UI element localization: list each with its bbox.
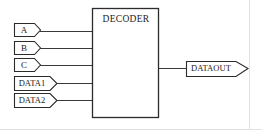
input-port-c-shape (15, 59, 41, 72)
input-port-b-shape (15, 42, 41, 55)
input-port-c-label: C (21, 60, 27, 70)
input-port-data1-label: DATA1 (19, 78, 46, 88)
block-diagram-canvas: DECODER A B C DATA1 DATA2 (0, 0, 262, 130)
schematic-svg: DECODER A B C DATA1 DATA2 (0, 0, 262, 130)
input-port-a[interactable]: A (15, 24, 41, 37)
input-port-b-label: B (21, 43, 27, 53)
input-port-data2-label: DATA2 (19, 95, 46, 105)
decoder-block[interactable]: DECODER (93, 9, 159, 118)
input-port-a-shape (15, 24, 41, 37)
input-port-b[interactable]: B (15, 42, 41, 55)
input-port-a-label: A (21, 25, 28, 35)
input-port-data2[interactable]: DATA2 (15, 94, 58, 108)
decoder-block-label: DECODER (103, 14, 150, 24)
input-port-data1[interactable]: DATA1 (15, 77, 58, 91)
decoder-block-outline (93, 9, 159, 118)
input-port-c[interactable]: C (15, 59, 41, 72)
output-port-dataout[interactable]: DATAOUT (187, 62, 249, 77)
output-port-dataout-label: DATAOUT (191, 63, 232, 73)
